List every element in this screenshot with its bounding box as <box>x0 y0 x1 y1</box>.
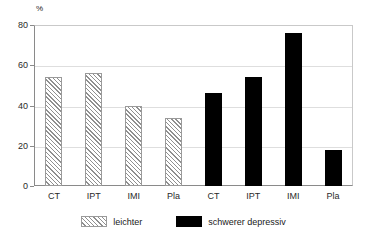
x-tick-label: CT <box>48 191 60 201</box>
legend-label: leichter <box>113 217 142 227</box>
bar-leichter-IPT <box>85 73 102 186</box>
y-tick-label: 20 <box>2 141 28 151</box>
bar-chart: % 020406080 CTIPTIMIPlaCTIPTIMIPla leich… <box>0 0 367 241</box>
x-tick-label: IPT <box>87 191 101 201</box>
bar-schwerer-Pla <box>325 150 342 186</box>
y-tick-label: 80 <box>2 20 28 30</box>
bars-layer <box>34 25 353 186</box>
y-tick-label: 0 <box>2 181 28 191</box>
bar-leichter-CT <box>45 77 62 186</box>
legend-swatch-solid <box>176 216 202 227</box>
y-tick-label: 40 <box>2 101 28 111</box>
chart-legend: leichterschwerer depressiv <box>0 216 367 227</box>
y-tick-label: 60 <box>2 60 28 70</box>
bar-schwerer-IPT <box>245 77 262 186</box>
bar-leichter-Pla <box>165 118 182 186</box>
legend-item: leichter <box>81 216 142 227</box>
bar-schwerer-IMI <box>285 33 302 186</box>
y-tick-mark <box>30 186 34 187</box>
bar-schwerer-CT <box>205 93 222 186</box>
x-tick-label: CT <box>207 191 219 201</box>
bar-leichter-IMI <box>125 106 142 187</box>
legend-item: schwerer depressiv <box>176 216 286 227</box>
x-tick-label: Pla <box>327 191 340 201</box>
legend-swatch-hatched <box>81 216 107 227</box>
legend-label: schwerer depressiv <box>208 217 286 227</box>
x-tick-label: IPT <box>246 191 260 201</box>
x-tick-label: Pla <box>167 191 180 201</box>
x-tick-label: IMI <box>127 191 140 201</box>
x-tick-label: IMI <box>287 191 300 201</box>
y-axis-unit-label: % <box>36 4 43 13</box>
